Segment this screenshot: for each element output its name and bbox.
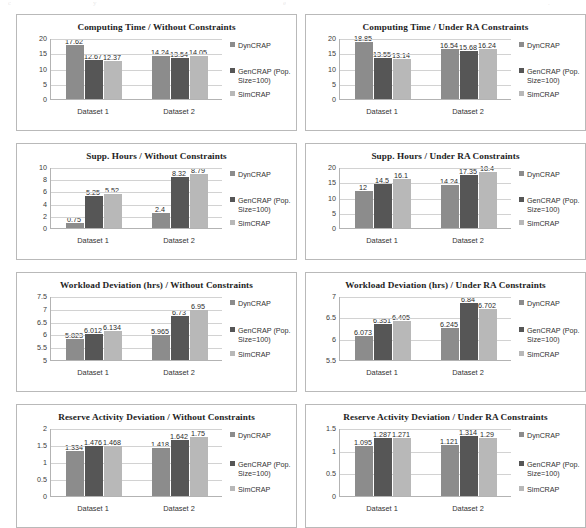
- bar-group: [137, 297, 223, 360]
- bar-simcrap[interactable]: [393, 438, 411, 496]
- bar-group: [426, 168, 512, 228]
- y-axis-tick-label: 10: [39, 164, 47, 171]
- legend-item-dyncrap[interactable]: DynCRAP: [230, 299, 271, 308]
- bar-dyncrap[interactable]: [152, 213, 170, 228]
- bar-simcrap[interactable]: [104, 61, 122, 99]
- legend-label: DynCRAP: [527, 41, 560, 50]
- chart-legend: DynCRAPGenCRAP (Pop. Size=100)SimCRAP: [230, 299, 294, 363]
- legend-item-gencrap[interactable]: GenCRAP (Pop. Size=100): [230, 196, 292, 214]
- legend-item-gencrap[interactable]: GenCRAP (Pop. Size=100): [230, 67, 292, 85]
- legend-item-simcrap[interactable]: SimCRAP: [230, 485, 270, 494]
- bar-dyncrap[interactable]: [152, 335, 170, 360]
- bar-dyncrap[interactable]: [355, 191, 373, 228]
- x-axis-tick-label: Dataset 2: [163, 107, 195, 116]
- y-axis-tick-label: 20: [328, 164, 336, 171]
- bar-dyncrap[interactable]: [441, 328, 459, 360]
- bar-dyncrap[interactable]: [152, 56, 170, 99]
- bar-simcrap[interactable]: [479, 49, 497, 99]
- bar-dyncrap[interactable]: [66, 339, 84, 360]
- bar-simcrap[interactable]: [104, 331, 122, 360]
- bar-dyncrap[interactable]: [441, 445, 459, 496]
- bar-gencrap[interactable]: [171, 316, 189, 360]
- bar-simcrap[interactable]: [104, 446, 122, 496]
- legend-swatch-icon: [230, 197, 235, 202]
- legend-item-simcrap[interactable]: SimCRAP: [230, 350, 270, 359]
- bar-gencrap[interactable]: [85, 196, 103, 228]
- legend-item-gencrap[interactable]: GenCRAP (Pop. Size=100): [230, 326, 292, 344]
- legend-swatch-icon: [519, 42, 524, 47]
- y-axis-tick-label: 0: [332, 96, 336, 103]
- bar-dyncrap[interactable]: [66, 45, 84, 99]
- legend-item-simcrap[interactable]: SimCRAP: [230, 90, 270, 99]
- bar-dyncrap[interactable]: [66, 223, 84, 228]
- legend-item-dyncrap[interactable]: DynCRAP: [230, 41, 271, 50]
- legend-item-simcrap[interactable]: SimCRAP: [519, 219, 559, 228]
- bar-simcrap[interactable]: [479, 438, 497, 496]
- legend-item-gencrap[interactable]: GenCRAP (Pop. Size=100): [230, 460, 292, 478]
- bar-group: [137, 168, 223, 228]
- legend-item-dyncrap[interactable]: DynCRAP: [519, 170, 560, 179]
- y-axis-tick-label: 15: [328, 180, 336, 187]
- bar-simcrap[interactable]: [393, 321, 411, 360]
- bar-dyncrap[interactable]: [441, 185, 459, 228]
- x-axis-tick-label: Dataset 1: [77, 504, 109, 513]
- legend-item-simcrap[interactable]: SimCRAP: [230, 219, 270, 228]
- bar-simcrap[interactable]: [104, 194, 122, 228]
- legend-item-simcrap[interactable]: SimCRAP: [519, 90, 559, 99]
- bar-gencrap[interactable]: [460, 51, 478, 99]
- chart-panel-3: Supp. Hours / Without Constraints0246810…: [16, 143, 297, 260]
- x-axis-tick-label: Dataset 2: [452, 236, 484, 245]
- bar-simcrap[interactable]: [479, 309, 497, 360]
- legend-label: DynCRAP: [527, 170, 560, 179]
- bar-gencrap[interactable]: [85, 446, 103, 496]
- y-axis-tick-label: 2: [43, 213, 47, 220]
- legend-item-dyncrap[interactable]: DynCRAP: [519, 431, 560, 440]
- legend-item-dyncrap[interactable]: DynCRAP: [519, 41, 560, 50]
- bar-simcrap[interactable]: [190, 174, 208, 228]
- legend-label: GenCRAP (Pop. Size=100): [527, 326, 581, 344]
- legend-label: GenCRAP (Pop. Size=100): [527, 196, 581, 214]
- legend-item-gencrap[interactable]: GenCRAP (Pop. Size=100): [519, 67, 581, 85]
- bar-gencrap[interactable]: [85, 334, 103, 360]
- bar-simcrap[interactable]: [393, 179, 411, 228]
- bar-dyncrap[interactable]: [355, 446, 373, 496]
- bar-simcrap[interactable]: [190, 310, 208, 360]
- bar-gencrap[interactable]: [460, 303, 478, 360]
- bar-simcrap[interactable]: [190, 56, 208, 99]
- legend-item-gencrap[interactable]: GenCRAP (Pop. Size=100): [519, 196, 581, 214]
- bar-dyncrap[interactable]: [152, 448, 170, 496]
- bar-gencrap[interactable]: [171, 58, 189, 99]
- legend-swatch-icon: [519, 197, 524, 202]
- legend-item-simcrap[interactable]: SimCRAP: [519, 350, 559, 359]
- bar-simcrap[interactable]: [190, 437, 208, 497]
- bar-gencrap[interactable]: [374, 58, 392, 99]
- legend-swatch-icon: [519, 461, 524, 466]
- bar-simcrap[interactable]: [393, 59, 411, 99]
- bar-gencrap[interactable]: [374, 438, 392, 496]
- bar-gencrap[interactable]: [374, 184, 392, 228]
- legend-item-simcrap[interactable]: SimCRAP: [519, 485, 559, 494]
- legend-item-dyncrap[interactable]: DynCRAP: [230, 170, 271, 179]
- y-axis-tick-label: 6: [43, 332, 47, 339]
- y-axis-tick-label: 1.5: [37, 442, 47, 449]
- bar-gencrap[interactable]: [85, 60, 103, 99]
- plot-area: [339, 39, 511, 100]
- legend-item-gencrap[interactable]: GenCRAP (Pop. Size=100): [519, 326, 581, 344]
- bar-gencrap[interactable]: [460, 436, 478, 496]
- bar-dyncrap[interactable]: [355, 42, 373, 99]
- legend-item-gencrap[interactable]: GenCRAP (Pop. Size=100): [519, 460, 581, 478]
- bar-dyncrap[interactable]: [441, 49, 459, 99]
- bar-simcrap[interactable]: [479, 172, 497, 228]
- bar-gencrap[interactable]: [171, 177, 189, 228]
- bar-gencrap[interactable]: [374, 324, 392, 360]
- legend-item-dyncrap[interactable]: DynCRAP: [519, 299, 560, 308]
- bar-gencrap[interactable]: [460, 175, 478, 228]
- legend-label: SimCRAP: [527, 219, 559, 228]
- bar-dyncrap[interactable]: [355, 336, 373, 360]
- chart-panel-4: Supp. Hours / Under RA Constraints051015…: [305, 143, 586, 260]
- chart-legend: DynCRAPGenCRAP (Pop. Size=100)SimCRAP: [519, 170, 583, 231]
- bar-dyncrap[interactable]: [66, 451, 84, 496]
- x-axis-tick-label: Dataset 1: [77, 368, 109, 377]
- legend-item-dyncrap[interactable]: DynCRAP: [230, 431, 271, 440]
- bar-gencrap[interactable]: [171, 440, 189, 496]
